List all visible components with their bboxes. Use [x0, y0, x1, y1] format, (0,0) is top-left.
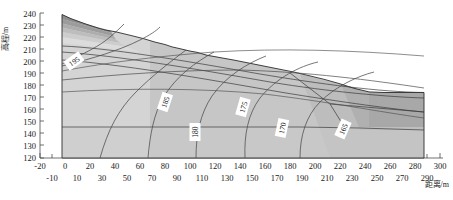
contour-label: 180 [191, 126, 200, 138]
chart-root: 高程/m 240 230 220 210 200 190 180 170 160… [0, 0, 453, 200]
cross-section-plot: 195 185 180 175 170 165 [0, 0, 453, 200]
y-axis-ticks [40, 13, 44, 158]
layer-lower-light [62, 127, 424, 158]
strata-fills [62, 15, 424, 159]
